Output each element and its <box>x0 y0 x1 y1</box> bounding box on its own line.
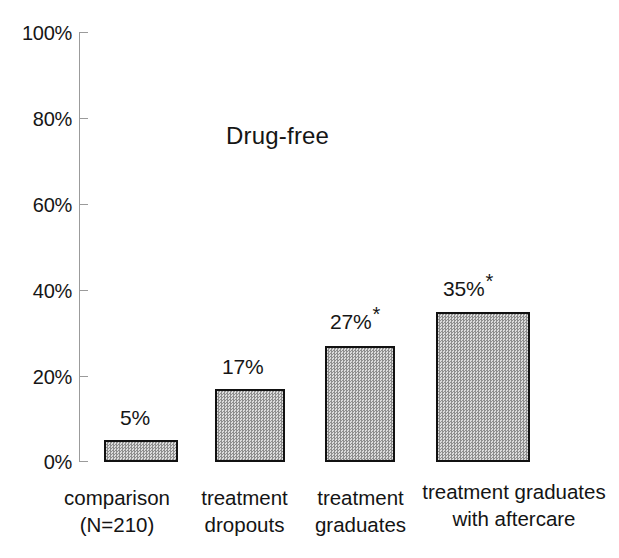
x-axis-label-treatment-graduates: treatment graduates <box>298 484 423 538</box>
bar-value-treatment-graduates: 27%* <box>330 310 380 334</box>
bar-value-treatment-graduates-text: 27% <box>330 310 371 333</box>
x-axis-label-treatment-graduates-line1: treatment <box>317 486 404 509</box>
bar-value-treatment-dropouts: 17% <box>222 355 264 379</box>
drug-free-bar-chart: 100% 80% 60% 40% 20% 0% Drug-free 5% 17%… <box>0 0 619 558</box>
x-axis-label-treatment-dropouts-line2: dropouts <box>182 511 307 538</box>
x-axis-label-treatment-dropouts: treatment dropouts <box>182 484 307 538</box>
y-axis-label-0: 0% <box>2 451 72 474</box>
x-axis-label-treatment-dropouts-line1: treatment <box>201 486 288 509</box>
x-axis-label-treatment-graduates-with-aftercare-line2: with aftercare <box>412 505 616 532</box>
bar-treatment-graduates <box>325 346 395 462</box>
y-axis-label-100: 100% <box>2 22 72 45</box>
bar-value-treatment-graduates-with-aftercare: 35%* <box>443 277 493 301</box>
y-axis-label-60: 60% <box>2 194 72 217</box>
bar-value-treatment-graduates-with-aftercare-text: 35% <box>443 277 484 300</box>
plot-area <box>80 32 619 462</box>
y-axis-label-80: 80% <box>2 108 72 131</box>
bar-value-treatment-graduates-with-aftercare-star: * <box>485 270 493 292</box>
bar-treatment-graduates-with-aftercare <box>436 312 530 462</box>
x-axis-label-treatment-graduates-with-aftercare-line1: treatment graduates <box>422 480 605 503</box>
x-axis-label-treatment-graduates-line2: graduates <box>298 511 423 538</box>
bar-value-treatment-dropouts-text: 17% <box>222 355 263 378</box>
x-axis-label-comparison-line1: comparison <box>64 486 170 509</box>
bar-value-comparison-text: 5% <box>120 406 150 429</box>
bar-value-treatment-graduates-star: * <box>372 303 380 325</box>
x-axis-label-comparison: comparison (N=210) <box>52 484 182 538</box>
x-axis-label-comparison-line2: (N=210) <box>52 511 182 538</box>
y-axis-label-20: 20% <box>2 366 72 389</box>
bar-comparison <box>104 440 178 462</box>
x-axis-label-treatment-graduates-with-aftercare: treatment graduates with aftercare <box>412 478 616 532</box>
bar-value-comparison: 5% <box>120 406 151 430</box>
y-axis-label-40: 40% <box>2 280 72 303</box>
bar-treatment-dropouts <box>215 389 285 462</box>
